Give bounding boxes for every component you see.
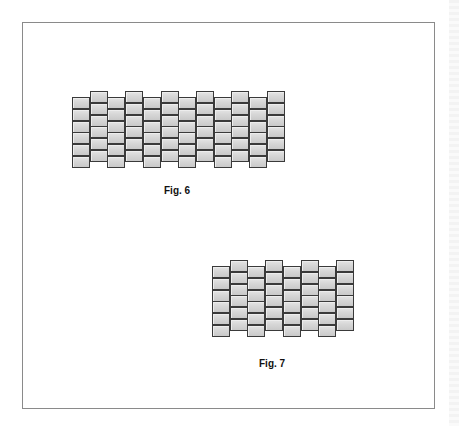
brick (178, 97, 196, 109)
brick (143, 109, 161, 121)
brick (249, 156, 267, 168)
brick (247, 313, 265, 325)
brick (318, 290, 336, 302)
brick (125, 115, 143, 127)
brick (247, 266, 265, 278)
brick (265, 319, 283, 331)
brick (230, 284, 248, 296)
brick (249, 121, 267, 133)
figure-6-caption: Fig. 6 (164, 185, 190, 196)
brick (90, 150, 108, 162)
brick (231, 126, 249, 138)
brick (214, 121, 232, 133)
brick (301, 319, 319, 331)
brick (90, 138, 108, 150)
brick (267, 150, 285, 162)
brick (90, 91, 108, 103)
page-edge-strip (449, 0, 459, 426)
brick (143, 97, 161, 109)
figure-frame (22, 22, 435, 409)
brick (231, 91, 249, 103)
brick (72, 156, 90, 168)
brick (265, 260, 283, 272)
brick (196, 103, 214, 115)
brick (336, 307, 354, 319)
brick (214, 144, 232, 156)
brick (336, 260, 354, 272)
brick (247, 290, 265, 302)
brick (161, 115, 179, 127)
brick (161, 150, 179, 162)
brick (107, 144, 125, 156)
brick (196, 138, 214, 150)
brick (107, 109, 125, 121)
brick (72, 132, 90, 144)
brick (178, 144, 196, 156)
brick (90, 103, 108, 115)
brick (231, 115, 249, 127)
brick (301, 272, 319, 284)
brick (196, 150, 214, 162)
brick (161, 126, 179, 138)
brick (249, 97, 267, 109)
brick (143, 156, 161, 168)
brick (90, 126, 108, 138)
brick (178, 121, 196, 133)
brick (283, 301, 301, 313)
brick (265, 272, 283, 284)
brick (143, 121, 161, 133)
brick (247, 325, 265, 337)
brick (267, 103, 285, 115)
brick (318, 325, 336, 337)
brick (125, 150, 143, 162)
brick (178, 109, 196, 121)
brick (283, 266, 301, 278)
brick (196, 115, 214, 127)
brick (214, 132, 232, 144)
brick (249, 144, 267, 156)
brick (230, 307, 248, 319)
brick (336, 295, 354, 307)
brick (107, 97, 125, 109)
brick (336, 319, 354, 331)
brick (143, 132, 161, 144)
brick (267, 91, 285, 103)
brick (125, 138, 143, 150)
brick (125, 103, 143, 115)
brick (125, 126, 143, 138)
brick (230, 319, 248, 331)
brick (231, 138, 249, 150)
brick (178, 156, 196, 168)
figure-7-caption: Fig. 7 (259, 358, 285, 369)
brick (196, 91, 214, 103)
brick (336, 272, 354, 284)
brick (283, 325, 301, 337)
brick (72, 144, 90, 156)
brick (214, 109, 232, 121)
brick (161, 103, 179, 115)
brick (212, 313, 230, 325)
brick (247, 278, 265, 290)
brick (283, 278, 301, 290)
brick (212, 290, 230, 302)
brick (212, 266, 230, 278)
figure-7-brick-pattern (212, 260, 355, 338)
brick (143, 144, 161, 156)
brick (72, 121, 90, 133)
brick (72, 97, 90, 109)
brick (267, 126, 285, 138)
brick (178, 132, 196, 144)
brick (230, 260, 248, 272)
brick (267, 138, 285, 150)
brick (214, 97, 232, 109)
brick (212, 325, 230, 337)
brick (249, 132, 267, 144)
brick (336, 284, 354, 296)
brick (125, 91, 143, 103)
brick (283, 313, 301, 325)
brick (161, 91, 179, 103)
brick (318, 313, 336, 325)
brick (265, 295, 283, 307)
brick (196, 126, 214, 138)
brick (249, 109, 267, 121)
